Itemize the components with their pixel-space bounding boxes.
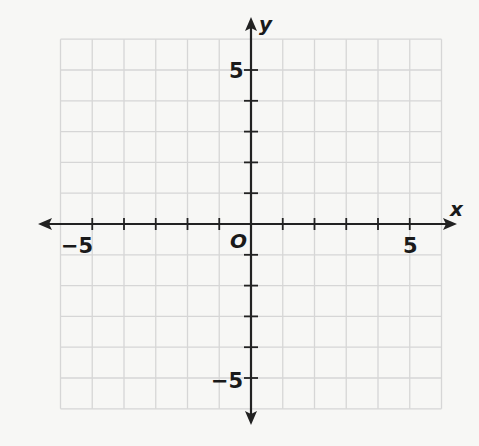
x-tick-label-neg5: −5 [61, 236, 93, 257]
coordinate-plane: y x O −5 5 5 −5 [0, 0, 479, 446]
axes [38, 17, 457, 425]
x-axis-label: x [450, 199, 463, 219]
y-tick-label-neg5: −5 [211, 371, 243, 392]
x-tick-label-pos5: 5 [403, 236, 418, 257]
y-axis-label: y [259, 14, 272, 34]
origin-label: O [230, 231, 247, 251]
y-tick-label-pos5: 5 [229, 61, 244, 82]
